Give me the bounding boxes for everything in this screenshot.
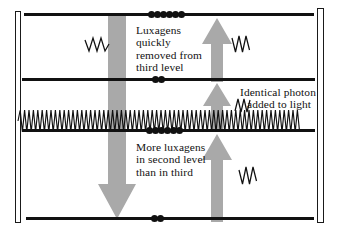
luxagen-dots-ground [151, 215, 163, 222]
note1-line3: removed from [136, 49, 202, 61]
up-arrow-pump-top [200, 18, 234, 82]
luxagen-dots-top [148, 11, 184, 18]
note-more-luxagens: More luxagens in second level than in th… [136, 141, 206, 178]
note1-line2: quickly [136, 36, 202, 48]
note3-line2: in second level [136, 153, 206, 165]
note2-line1: Identical photon [240, 86, 316, 98]
luxagen-dot [178, 11, 185, 18]
luxagen-dots-second [152, 76, 164, 83]
photon-wavelet-top-right [231, 35, 253, 55]
luxagen-dot [158, 76, 165, 83]
level-ground [26, 217, 314, 220]
note-luxagens-removed: Luxagens quickly removed from third leve… [136, 24, 202, 74]
diagram-canvas: Luxagens quickly removed from third leve… [0, 0, 346, 236]
note1-line1: Luxagens [136, 24, 202, 36]
note1-line4: third level [136, 61, 202, 73]
note-identical-photon: Identical photon added to light [240, 86, 316, 111]
luxagen-dot [157, 215, 164, 222]
note3-line3: than in third [136, 166, 206, 178]
photon-wavelet-left [84, 36, 110, 54]
level-second [22, 78, 315, 81]
photon-wavelet-low-right [238, 166, 260, 186]
note3-line1: More luxagens [136, 141, 206, 153]
note2-line2: added to light [240, 98, 316, 110]
